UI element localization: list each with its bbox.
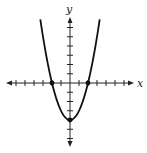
x-intercept-right-point — [86, 81, 91, 86]
y-axis-up-arrow-icon — [68, 17, 73, 23]
parabola-graph: x y — [0, 0, 147, 153]
vertex-point — [68, 118, 73, 123]
x-axis-left-arrow-icon — [6, 81, 12, 86]
x-axis-label: x — [137, 77, 144, 90]
x-intercept-left-point — [50, 81, 55, 86]
y-axis-label: y — [65, 3, 73, 16]
y-axis-down-arrow-icon — [68, 141, 73, 147]
x-axis-right-arrow-icon — [128, 81, 134, 86]
